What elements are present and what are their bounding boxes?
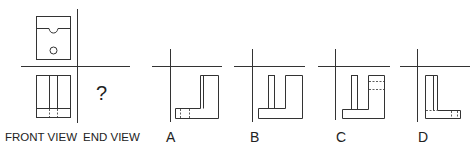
question-mark: ?: [96, 83, 107, 103]
orthographic-views-diagram: [0, 0, 475, 148]
front-view-label: FRONT VIEW: [5, 132, 77, 144]
front-view-drawing: [37, 76, 71, 118]
option-c-drawing[interactable]: [318, 49, 390, 120]
option-d-drawing[interactable]: [400, 49, 470, 122]
option-a-label[interactable]: A: [166, 130, 175, 144]
option-b-label[interactable]: B: [250, 130, 259, 144]
option-c-label[interactable]: C: [336, 130, 346, 144]
option-d-label[interactable]: D: [418, 130, 428, 144]
option-b-drawing[interactable]: [234, 49, 305, 122]
problem-axes: [21, 9, 130, 123]
top-view-drawing: [37, 17, 71, 60]
end-view-label: END VIEW: [83, 132, 140, 144]
option-a-drawing[interactable]: [152, 49, 222, 122]
